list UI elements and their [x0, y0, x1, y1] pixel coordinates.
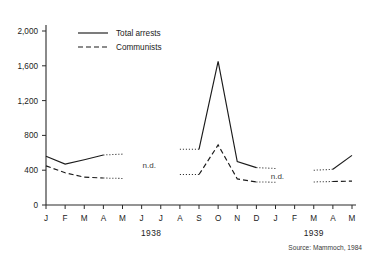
source-credit: Source: Mammoch, 1984 — [288, 244, 362, 251]
x-tick-label: M — [81, 214, 88, 223]
x-tick-label: F — [292, 214, 297, 223]
x-tick-label: A — [177, 214, 183, 223]
x-tick-label: J — [159, 214, 163, 223]
year-label: 1938 — [141, 228, 161, 238]
x-tick-label: A — [101, 214, 107, 223]
x-tick-label: J — [273, 214, 277, 223]
x-tick-label: M — [349, 214, 356, 223]
y-tick-label: 400 — [24, 166, 38, 175]
x-tick-label: N — [234, 214, 240, 223]
x-tick-label: D — [253, 214, 259, 223]
y-tick-label: 1,200 — [18, 97, 39, 106]
y-tick-label: 1,600 — [18, 62, 39, 71]
x-tick-label: M — [310, 214, 317, 223]
x-tick-label: A — [330, 214, 336, 223]
year-label: 1939 — [304, 228, 324, 238]
x-tick-label: F — [63, 214, 68, 223]
series-line-total-arrests — [46, 155, 103, 164]
chart-container: 04008001,2001,6002,000JFMAMJJASONDJFMAM1… — [0, 0, 369, 265]
series-line-total-arrests — [199, 61, 256, 167]
series-line-communists — [46, 166, 103, 178]
x-tick-label: J — [44, 214, 48, 223]
x-tick-label: M — [119, 214, 126, 223]
y-tick-label: 0 — [33, 201, 38, 210]
series-line-total-arrests — [314, 169, 333, 170]
series-line-total-arrests — [333, 155, 352, 169]
legend-label: Total arrests — [116, 29, 161, 38]
series-line-total-arrests — [103, 154, 122, 155]
x-tick-label: J — [140, 214, 144, 223]
series-line-communists — [199, 145, 256, 182]
arrests-line-chart: 04008001,2001,6002,000JFMAMJJASONDJFMAM1… — [0, 0, 369, 265]
series-line-total-arrests — [256, 168, 275, 169]
x-tick-label: S — [196, 214, 202, 223]
no-data-annotation: n.d. — [143, 161, 156, 170]
x-tick-label: O — [215, 214, 221, 223]
no-data-annotation: n.d. — [271, 172, 284, 181]
legend-label: Communists — [116, 43, 162, 52]
y-tick-label: 2,000 — [18, 27, 39, 36]
y-tick-label: 800 — [24, 131, 38, 140]
